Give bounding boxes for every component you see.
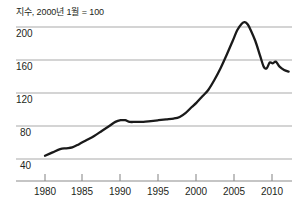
x-tick-label-2005: 2005 — [217, 186, 251, 197]
y-tick-label-160: 160 — [16, 61, 33, 72]
x-tick-label-1985: 1985 — [65, 186, 99, 197]
x-axis-line — [16, 174, 292, 181]
y-tick-label-200: 200 — [16, 28, 33, 39]
data-series-line — [45, 22, 289, 156]
gridlines — [16, 27, 292, 159]
chart-figure: 지수, 2000년 1월 = 100 200 160 120 80 40 198… — [0, 0, 307, 215]
x-tick-label-1980: 1980 — [28, 186, 62, 197]
x-tick-label-1995: 1995 — [141, 186, 175, 197]
x-tick-label-2000: 2000 — [179, 186, 213, 197]
x-tick-label-2010: 2010 — [255, 186, 289, 197]
y-tick-label-120: 120 — [16, 94, 33, 105]
chart-plot-area — [0, 0, 307, 215]
y-tick-label-80: 80 — [20, 127, 31, 138]
x-tick-label-1990: 1990 — [103, 186, 137, 197]
y-tick-label-40: 40 — [20, 160, 31, 171]
